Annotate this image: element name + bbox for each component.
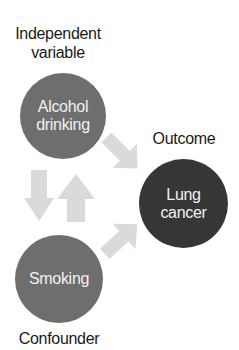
- node-smoking-line1: Smoking: [29, 270, 89, 288]
- node-smoking: Smoking: [15, 235, 103, 323]
- node-alcohol-line1: Alcohol: [38, 98, 88, 116]
- arrow-smoking-to-lung-icon: [93, 212, 148, 267]
- node-lung-line1: Lung: [166, 186, 200, 204]
- arrow-alcohol-to-smoking-icon: [24, 170, 54, 221]
- arrow-alcohol-to-lung-icon: [94, 125, 149, 180]
- node-lung-cancer: Lung cancer: [139, 159, 228, 248]
- node-alcohol-drinking: Alcohol drinking: [20, 73, 106, 159]
- node-alcohol-line2: drinking: [36, 116, 90, 134]
- node-lung-line2: cancer: [160, 204, 206, 222]
- arrow-smoking-to-alcohol-icon: [57, 174, 95, 222]
